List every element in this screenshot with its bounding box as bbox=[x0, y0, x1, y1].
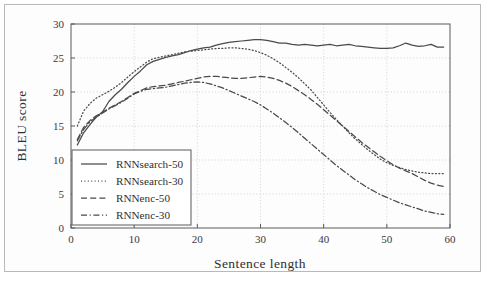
x-tick-label: 20 bbox=[192, 233, 204, 245]
y-tick-label: 5 bbox=[59, 188, 65, 200]
legend-label-rnnenc-30: RNNenc-30 bbox=[116, 209, 170, 221]
y-tick-label: 20 bbox=[53, 86, 65, 98]
x-tick-label: 10 bbox=[129, 233, 141, 245]
y-axis-tick-labels: 051015202530 bbox=[53, 18, 65, 234]
bleu-vs-sentence-length-figure: 0102030405060 051015202530 Sentence leng… bbox=[0, 0, 485, 284]
y-axis-title: BLEU score bbox=[14, 90, 29, 161]
y-tick-label: 10 bbox=[53, 154, 65, 166]
x-tick-label: 30 bbox=[255, 233, 267, 245]
x-axis-title: Sentence length bbox=[214, 256, 306, 271]
y-tick-label: 30 bbox=[53, 18, 65, 30]
chart-legend: RNNsearch-50RNNsearch-30RNNenc-50RNNenc-… bbox=[72, 150, 191, 225]
x-tick-label: 40 bbox=[318, 233, 330, 245]
x-axis-tick-labels: 0102030405060 bbox=[68, 233, 456, 245]
y-tick-label: 15 bbox=[53, 120, 65, 132]
y-tick-label: 25 bbox=[53, 52, 65, 64]
x-tick-label: 50 bbox=[381, 233, 393, 245]
screenshot-root: 0102030405060 051015202530 Sentence leng… bbox=[0, 0, 485, 284]
legend-label-rnnsearch-30: RNNsearch-30 bbox=[116, 175, 184, 187]
legend-label-rnnsearch-50: RNNsearch-50 bbox=[116, 158, 184, 170]
x-tick-label: 0 bbox=[68, 233, 74, 245]
x-tick-label: 60 bbox=[445, 233, 457, 245]
line-chart: 0102030405060 051015202530 Sentence leng… bbox=[0, 0, 485, 284]
legend-label-rnnenc-50: RNNenc-50 bbox=[116, 192, 170, 204]
y-tick-label: 0 bbox=[59, 222, 65, 234]
